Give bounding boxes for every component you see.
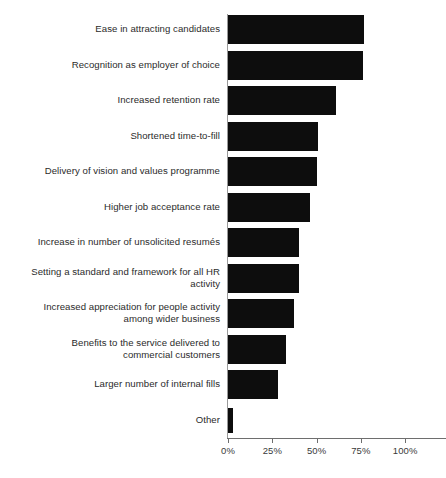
bar-category-label-line1: Setting a standard and framework for all… [0,266,220,278]
bar-category-label-line2: activity [0,278,220,290]
bar-row: Other [0,405,446,435]
bar-category-label: Increased retention rate [0,94,220,106]
axis-tick-mark [272,438,273,443]
bar-category-label: Increase in number of unsolicited resumé… [0,236,220,248]
axis-tick-mark [317,438,318,443]
bar-category-label: Larger number of internal fills [0,378,220,390]
plot-area: Ease in attracting candidatesRecognition… [0,0,446,478]
bar-row: Shortened time-to-fill [0,121,446,151]
bar [228,193,310,222]
bar-category-label: Delivery of vision and values programme [0,165,220,177]
bar-row: Delivery of vision and values programme [0,156,446,186]
axis-tick-mark [228,438,229,443]
bar-row: Increased retention rate [0,85,446,115]
bar [228,264,299,293]
bar-category-label: Higher job acceptance rate [0,201,220,213]
bar-category-label: Increased appreciation for people activi… [0,301,220,326]
bar-row: Ease in attracting candidates [0,14,446,44]
bar [228,86,336,115]
bar [228,228,299,257]
bar-category-label-line1: Increased appreciation for people activi… [0,301,220,313]
bar [228,299,294,328]
axis-tick-label: 75% [351,445,370,456]
bar-category-label-line2: commercial customers [0,349,220,361]
bar-category-label: Benefits to the service delivered tocomm… [0,337,220,362]
bar-category-label: Ease in attracting candidates [0,23,220,35]
bar [228,15,364,44]
bar-row: Larger number of internal fills [0,369,446,399]
bar [228,51,363,80]
bar-row: Increase in number of unsolicited resumé… [0,227,446,257]
axis-tick-label: 100% [393,445,418,456]
category-axis-line [227,438,446,439]
bar-row: Setting a standard and framework for all… [0,263,446,293]
bar [228,157,317,186]
bar-category-label: Recognition as employer of choice [0,59,220,71]
bar [228,408,233,433]
axis-tick-mark [361,438,362,443]
axis-tick-mark [405,438,406,443]
bar-category-label-line2: among wider business [0,313,220,325]
bar-row: Benefits to the service delivered tocomm… [0,334,446,364]
bar-chart: Ease in attracting candidatesRecognition… [0,0,446,478]
bar [228,335,286,364]
bar-row: Higher job acceptance rate [0,192,446,222]
axis-tick-label: 25% [263,445,282,456]
bar [228,370,278,399]
bar [228,122,318,151]
bar-category-label: Other [0,414,220,426]
bar-row: Recognition as employer of choice [0,50,446,80]
axis-tick-label: 50% [307,445,326,456]
bar-row: Increased appreciation for people activi… [0,298,446,328]
bar-category-label: Setting a standard and framework for all… [0,266,220,291]
bar-category-label-line1: Benefits to the service delivered to [0,337,220,349]
axis-tick-label: 0% [221,445,235,456]
bar-category-label: Shortened time-to-fill [0,130,220,142]
